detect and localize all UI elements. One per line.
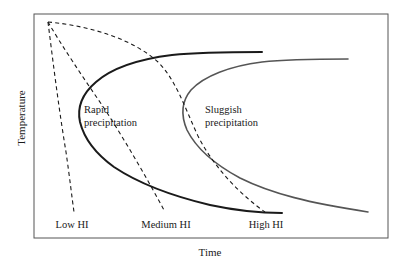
- sluggish-precipitation-label: Sluggish precipitation: [205, 104, 258, 129]
- sluggish-precipitation-label-line1: Sluggish: [205, 104, 258, 117]
- rapid-precipitation-curve: [79, 52, 282, 213]
- ttt-diagram-figure: Temperature Time Rapid precipitation Slu…: [0, 0, 405, 270]
- low-hi-label: Low HI: [40, 219, 104, 230]
- x-axis-title: Time: [160, 246, 260, 258]
- high-hi-label: High HI: [234, 219, 298, 230]
- rapid-precipitation-label-line1: Rapid: [84, 104, 137, 117]
- sluggish-precipitation-label-line2: precipitation: [205, 117, 258, 130]
- sluggish-precipitation-curve: [183, 59, 368, 212]
- low-hi-cooling-curve: [48, 22, 74, 212]
- medium-hi-label: Medium HI: [124, 219, 208, 230]
- rapid-precipitation-label-line2: precipitation: [84, 117, 137, 130]
- y-axis-title: Temperature: [15, 78, 27, 158]
- rapid-precipitation-label: Rapid precipitation: [84, 104, 137, 129]
